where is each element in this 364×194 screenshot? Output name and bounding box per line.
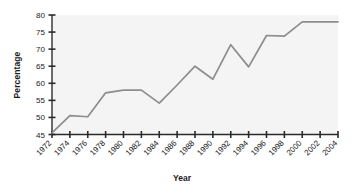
x-axis-tick-label: 2002 [303, 138, 322, 157]
line-chart-plot: 4550556065707580 19721974197619781980198… [0, 0, 364, 194]
x-axis-group: 1972197419761978198019821984198619881990… [34, 131, 339, 157]
x-axis-tick-label: 1990 [195, 138, 214, 157]
y-axis-tick-label: 55 [36, 96, 45, 105]
x-axis-tick-label: 1972 [34, 138, 53, 157]
x-axis-tick-label: 1980 [106, 138, 125, 157]
y-axis-tick-label: 75 [36, 28, 45, 37]
x-axis-tick-label: 2004 [320, 138, 339, 157]
x-axis-label: Year [0, 173, 364, 183]
x-axis-tick-label: 1996 [249, 138, 268, 157]
x-axis-tick-label: 1976 [70, 138, 89, 157]
x-axis-tick-label: 1992 [213, 138, 232, 157]
x-axis-tick-label: 1978 [88, 138, 107, 157]
y-axis-tick-label: 60 [36, 79, 45, 88]
x-axis-tick-label: 1986 [160, 138, 179, 157]
y-axis-group: 4550556065707580 [36, 11, 55, 140]
x-axis-tick-label: 1974 [52, 138, 71, 157]
y-axis-tick-labels: 4550556065707580 [36, 11, 45, 140]
y-axis-tick-label: 65 [36, 62, 45, 71]
x-axis-tick-label: 1984 [142, 138, 161, 157]
y-axis-tick-label: 70 [36, 45, 45, 54]
y-axis-tick-label: 45 [36, 131, 45, 140]
chart-container: Percentage 4550556065707580 197219741976… [0, 0, 364, 194]
x-axis-tick-label: 1998 [267, 138, 286, 157]
y-axis-tick-label: 80 [36, 11, 45, 20]
x-axis-tick-label: 1988 [177, 138, 196, 157]
x-axis-tick-label: 1982 [124, 138, 143, 157]
x-axis-tick-label: 1994 [231, 138, 250, 157]
x-axis-tick-label: 2000 [285, 138, 304, 157]
plot-background [52, 15, 338, 134]
x-axis-tick-labels: 1972197419761978198019821984198619881990… [34, 138, 339, 157]
y-axis-tick-label: 50 [36, 113, 45, 122]
